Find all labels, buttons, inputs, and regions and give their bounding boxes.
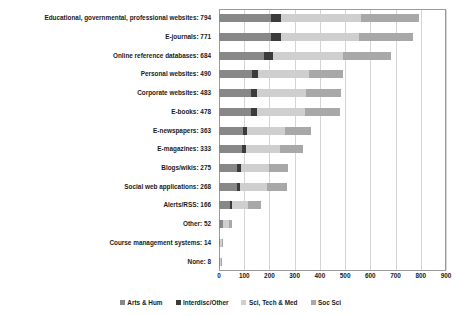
- bar-segment-sci-tech-med: [257, 108, 306, 116]
- bar-row: Educational, governmental, professional …: [0, 9, 461, 28]
- bar-row: E-newspapers: 363: [0, 121, 461, 140]
- chart-legend: Arts & HumInterdisc/OtherSci, Tech & Med…: [0, 295, 461, 309]
- bar-segment-soc-sci: [285, 127, 311, 135]
- bar-row: Social web applications: 268: [0, 177, 461, 196]
- legend-item[interactable]: Sci, Tech & Med: [241, 299, 297, 306]
- bar-segment-soc-sci: [306, 89, 341, 97]
- bar-segment-interdisc-other: [271, 14, 281, 22]
- bar-segment-soc-sci: [269, 164, 289, 172]
- stacked-bar: [219, 14, 419, 22]
- bar-segment-sci-tech-med: [240, 183, 267, 191]
- bar-category-label: E-magazines: 333: [0, 145, 215, 153]
- bar-category-label: Blogs/wikis: 275: [0, 164, 215, 172]
- bar-category-label: Online reference databases: 684: [0, 52, 215, 60]
- bar-row: Blogs/wikis: 275: [0, 159, 461, 178]
- bar-row: Course management systems: 14: [0, 234, 461, 253]
- bar-segment-arts-hum: [219, 201, 230, 209]
- legend-label: Soc Sci: [318, 299, 341, 306]
- bar-row: Alerts/RSS: 166: [0, 196, 461, 215]
- bar-segment-interdisc-other: [264, 52, 273, 60]
- stacked-bar: [219, 89, 341, 97]
- bar-segment-sci-tech-med: [258, 70, 308, 78]
- bar-category-label: Personal websites: 490: [0, 70, 215, 78]
- bar-row: Online reference databases: 684: [0, 46, 461, 65]
- x-axis-tick-label: 300: [289, 272, 300, 279]
- bar-row: E-journals: 771: [0, 28, 461, 47]
- legend-item[interactable]: Interdisc/Other: [176, 299, 229, 306]
- bar-segment-soc-sci: [309, 70, 343, 78]
- bar-segment-sci-tech-med: [247, 127, 284, 135]
- bar-category-label: E-books: 478: [0, 108, 215, 116]
- bar-segment-sci-tech-med: [281, 14, 362, 22]
- bar-segment-soc-sci: [361, 14, 419, 22]
- legend-item[interactable]: Arts & Hum: [120, 299, 163, 306]
- bar-segment-soc-sci: [248, 201, 260, 209]
- bar-row: E-books: 478: [0, 103, 461, 122]
- stacked-bar: [219, 164, 288, 172]
- bar-segment-soc-sci: [221, 258, 222, 266]
- legend-swatch-icon: [241, 300, 246, 305]
- x-axis-tick-label: 700: [390, 272, 401, 279]
- bar-segment-sci-tech-med: [273, 52, 342, 60]
- bar-segment-soc-sci: [222, 239, 223, 247]
- bar-segment-soc-sci: [305, 108, 339, 116]
- stacked-bar: [219, 201, 261, 209]
- bar-category-label: Course management systems: 14: [0, 239, 215, 247]
- bar-segment-soc-sci: [343, 52, 392, 60]
- bar-segment-soc-sci: [229, 220, 233, 228]
- bar-row: None: 8: [0, 252, 461, 271]
- legend-item[interactable]: Soc Sci: [311, 299, 342, 306]
- bar-segment-soc-sci: [280, 145, 303, 153]
- bar-row: Personal websites: 490: [0, 65, 461, 84]
- bar-segment-arts-hum: [219, 33, 271, 41]
- bar-segment-sci-tech-med: [246, 145, 280, 153]
- bar-category-label: Alerts/RSS: 166: [0, 201, 215, 209]
- bar-segment-arts-hum: [219, 127, 243, 135]
- bar-segment-arts-hum: [219, 14, 271, 22]
- x-axis-tick-label: 400: [315, 272, 326, 279]
- bar-row: Corporate websites: 483: [0, 84, 461, 103]
- stacked-bar: [219, 145, 303, 153]
- bar-segment-soc-sci: [267, 183, 286, 191]
- bar-category-label: Other: 52: [0, 220, 215, 228]
- x-axis-tick-label: 800: [415, 272, 426, 279]
- stacked-bar: [219, 220, 232, 228]
- bar-segment-arts-hum: [219, 108, 251, 116]
- stacked-bar: [219, 239, 223, 247]
- bar-segment-arts-hum: [219, 52, 264, 60]
- bar-category-label: E-journals: 771: [0, 33, 215, 41]
- x-axis: 0100200300400500600700800900: [0, 272, 461, 284]
- legend-swatch-icon: [311, 300, 316, 305]
- bar-segment-sci-tech-med: [241, 164, 269, 172]
- bar-segment-arts-hum: [219, 164, 237, 172]
- bar-segment-sci-tech-med: [232, 201, 249, 209]
- bar-segment-soc-sci: [359, 33, 413, 41]
- legend-label: Sci, Tech & Med: [249, 299, 298, 306]
- bar-segment-sci-tech-med: [281, 33, 359, 41]
- legend-label: Interdisc/Other: [183, 299, 228, 306]
- bar-row: Other: 52: [0, 215, 461, 234]
- legend-label: Arts & Hum: [127, 299, 162, 306]
- x-axis-tick-label: 0: [217, 272, 221, 279]
- x-axis-tick-label: 100: [239, 272, 250, 279]
- stacked-bar: [219, 70, 343, 78]
- bar-segment-arts-hum: [219, 70, 252, 78]
- bar-row: E-magazines: 333: [0, 140, 461, 159]
- bar-category-label: Social web applications: 268: [0, 183, 215, 191]
- stacked-bar: [219, 52, 391, 60]
- legend-swatch-icon: [120, 300, 125, 305]
- bar-category-label: E-newspapers: 363: [0, 127, 215, 135]
- x-axis-tick-label: 600: [365, 272, 376, 279]
- bar-segment-interdisc-other: [271, 33, 281, 41]
- stacked-bar-chart: Educational, governmental, professional …: [0, 0, 461, 316]
- x-axis-tick-label: 500: [340, 272, 351, 279]
- bar-rows: Educational, governmental, professional …: [0, 9, 461, 271]
- bar-segment-arts-hum: [219, 89, 251, 97]
- bar-category-label: None: 8: [0, 258, 215, 266]
- x-axis-tick-label: 200: [264, 272, 275, 279]
- stacked-bar: [219, 183, 287, 191]
- bar-segment-arts-hum: [219, 183, 237, 191]
- x-axis-tick-label: 900: [441, 272, 452, 279]
- stacked-bar: [219, 33, 413, 41]
- bar-category-label: Educational, governmental, professional …: [0, 14, 215, 22]
